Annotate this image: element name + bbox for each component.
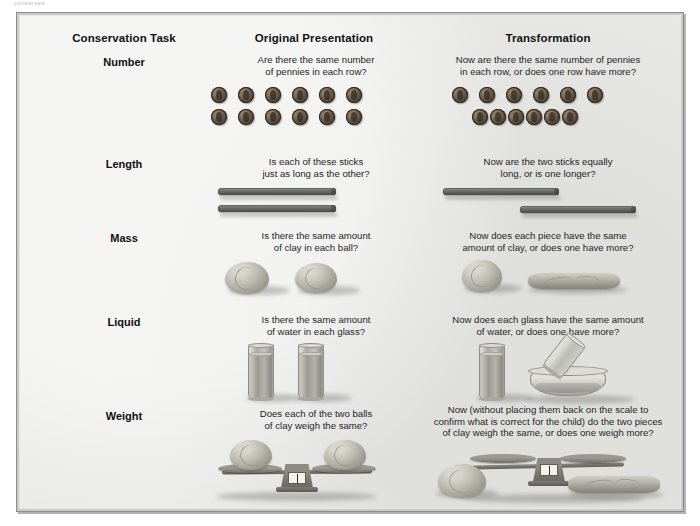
figure-paper-background: Conservation Task Original Presentation … bbox=[20, 16, 680, 508]
question-number-transformation: Now are there the same number of pennies… bbox=[412, 54, 684, 77]
task-row-length: Length Is each of these sticks just as l… bbox=[20, 154, 684, 226]
cropped-caption-text: conserves bbox=[14, 0, 154, 7]
glass-left bbox=[248, 345, 274, 399]
task-row-weight: Weight Does each of the two balls of cla… bbox=[20, 402, 684, 510]
question-liquid-transformation: Now does each glass have the same amount… bbox=[412, 314, 684, 337]
question-length-original: Is each of these sticks just as long as … bbox=[216, 156, 416, 179]
question-mass-transformation: Now does each piece have the same amount… bbox=[412, 230, 684, 253]
figure-frame: Conservation Task Original Presentation … bbox=[16, 12, 684, 512]
column-header-transformation: Transformation bbox=[412, 32, 684, 50]
wide-bowl bbox=[530, 370, 606, 396]
row-label-number: Number bbox=[26, 56, 222, 68]
row-label-weight: Weight bbox=[26, 410, 222, 422]
question-length-transformation: Now are the two sticks equally long, or … bbox=[412, 156, 684, 179]
task-row-number: Number Are there the same number of penn… bbox=[20, 52, 684, 156]
column-header-conservation-task: Conservation Task bbox=[26, 32, 222, 50]
question-weight-transformation: Now (without placing them back on the sc… bbox=[412, 404, 684, 439]
question-weight-original: Does each of the two balls of clay weigh… bbox=[216, 408, 416, 431]
task-row-mass: Mass Is there the same amount of clay in… bbox=[20, 228, 684, 310]
question-liquid-original: Is there the same amount of water in eac… bbox=[216, 314, 416, 337]
question-number-original: Are there the same number of pennies in … bbox=[216, 54, 416, 77]
row-label-length: Length bbox=[26, 158, 222, 170]
glass-right bbox=[298, 345, 324, 399]
glass-tall bbox=[479, 345, 505, 399]
row-label-mass: Mass bbox=[26, 232, 222, 244]
column-header-original-presentation: Original Presentation bbox=[216, 32, 412, 50]
figure-page: conserves Conservation Task Original Pre… bbox=[0, 0, 700, 526]
row-label-liquid: Liquid bbox=[26, 316, 222, 328]
question-mass-original: Is there the same amount of clay in each… bbox=[216, 230, 416, 253]
task-row-liquid: Liquid Is there the same amount of water… bbox=[20, 312, 684, 404]
